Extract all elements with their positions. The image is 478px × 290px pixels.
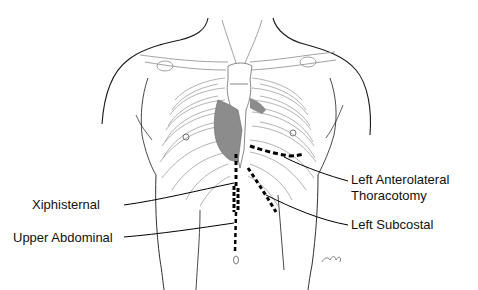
label-xiphisternal: Xiphisternal <box>32 198 100 212</box>
thoracic-incision-diagram: Xiphisternal Upper Abdominal Left Antero… <box>0 0 478 290</box>
label-thoracotomy: Thoracotomy <box>351 189 427 203</box>
left-subcostal-incision <box>248 168 276 212</box>
label-upper-abdominal: Upper Abdominal <box>13 231 113 245</box>
left-anterolateral-incision <box>250 146 304 156</box>
label-left-subcostal: Left Subcostal <box>351 218 433 232</box>
label-left-anterolateral: Left Anterolateral <box>351 173 449 187</box>
torso-illustration <box>0 0 478 290</box>
artist-signature <box>322 257 341 262</box>
umbilicus <box>234 256 239 264</box>
